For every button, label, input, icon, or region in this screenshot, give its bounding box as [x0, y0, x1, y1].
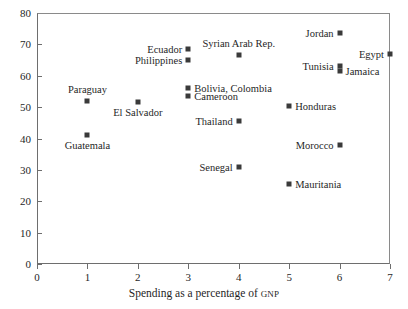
y-axis-tick-label: 70 [5, 38, 31, 50]
data-point-marker [388, 51, 393, 56]
x-axis-tick-label: 6 [330, 271, 350, 283]
data-point-label: Senegal [199, 161, 232, 172]
data-point-label: Ecuador [147, 44, 182, 55]
data-point-label: Jamaica [346, 66, 380, 77]
y-axis-tick-label: 0 [5, 258, 31, 270]
y-axis-tick-label: 30 [5, 164, 31, 176]
data-point-label: Philippines [135, 55, 182, 66]
data-point-marker [337, 69, 342, 74]
data-point-marker [337, 31, 342, 36]
x-axis-title: Spending as a percentage of GNP [0, 287, 408, 299]
data-point-label: El Salvador [113, 107, 162, 118]
x-axis-tick [37, 264, 38, 269]
x-axis-tick-label: 2 [128, 271, 148, 283]
data-point-marker [135, 100, 140, 105]
y-axis-tick [37, 76, 42, 77]
x-axis-tick [340, 264, 341, 269]
x-axis-tick [239, 264, 240, 269]
data-point-marker [85, 133, 90, 138]
x-axis-tick-label: 7 [380, 271, 400, 283]
x-axis-title-smallcaps: GNP [261, 289, 280, 299]
data-point-marker [186, 58, 191, 63]
scatter-plot-figure: 01020304050607080 01234567 ParaguayGuate… [0, 0, 408, 309]
data-point-marker [287, 181, 292, 186]
data-point-marker [186, 94, 191, 99]
data-point-marker [186, 47, 191, 52]
y-axis-tick-label: 80 [5, 7, 31, 19]
y-axis-tick [37, 201, 42, 202]
data-point-marker [186, 86, 191, 91]
data-point-label: Tunisia [302, 61, 333, 72]
data-point-marker [236, 53, 241, 58]
y-axis-tick-label: 20 [5, 195, 31, 207]
data-point-label: Cameroon [194, 91, 238, 102]
plot-area [37, 13, 390, 264]
x-axis-tick-label: 5 [279, 271, 299, 283]
x-axis-tick-label: 4 [229, 271, 249, 283]
data-point-label: Jordan [306, 28, 334, 39]
data-point-label: Mauritania [295, 178, 341, 189]
x-axis-tick-label: 0 [27, 271, 47, 283]
x-axis-tick [87, 264, 88, 269]
data-point-marker [337, 142, 342, 147]
data-point-label: Honduras [295, 100, 336, 111]
x-axis-tick-label: 3 [178, 271, 198, 283]
data-point-label: Egypt [359, 48, 384, 59]
data-point-label: Syrian Arab Rep. [202, 38, 275, 49]
x-axis-tick [390, 264, 391, 269]
data-point-marker [287, 103, 292, 108]
data-point-marker [85, 98, 90, 103]
y-axis-tick [37, 107, 42, 108]
y-axis-tick [37, 170, 42, 171]
x-axis-tick [138, 264, 139, 269]
x-axis-tick [188, 264, 189, 269]
y-axis-tick [37, 44, 42, 45]
y-axis-tick [37, 139, 42, 140]
data-point-marker [236, 164, 241, 169]
y-axis-tick-label: 60 [5, 70, 31, 82]
x-axis-tick [289, 264, 290, 269]
y-axis-tick-label: 50 [5, 101, 31, 113]
data-point-label: Morocco [296, 139, 334, 150]
y-axis-tick [37, 233, 42, 234]
data-point-label: Guatemala [65, 140, 110, 151]
y-axis-tick-label: 10 [5, 227, 31, 239]
data-point-marker [236, 119, 241, 124]
x-axis-tick-label: 1 [77, 271, 97, 283]
x-axis-title-main: Spending as a percentage of [129, 287, 261, 299]
y-axis-tick-label: 40 [5, 133, 31, 145]
data-point-label: Thailand [195, 116, 232, 127]
data-point-label: Paraguay [68, 84, 107, 95]
